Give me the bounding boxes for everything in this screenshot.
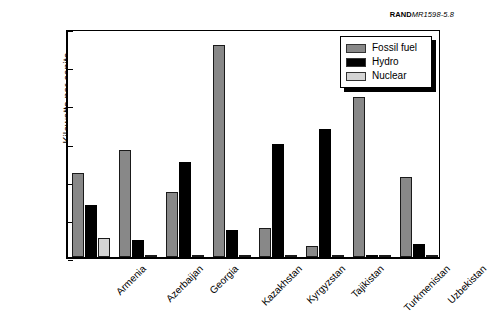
- bar-fossil: [400, 177, 412, 257]
- bar-nuclear: [426, 255, 438, 257]
- bar-fossil: [259, 228, 271, 257]
- bar-hydro: [226, 230, 238, 257]
- legend-swatch: [346, 58, 366, 67]
- x-axis-tick-label: Tajikistan: [349, 263, 386, 300]
- legend-label: Nuclear: [372, 71, 406, 81]
- x-axis-tick-label: Kazakhstan: [259, 263, 304, 308]
- bar-hydro: [366, 255, 378, 257]
- legend-label: Fossil fuel: [372, 43, 417, 53]
- x-axis-tick-label: Armenia: [114, 263, 148, 297]
- bar-group: [213, 31, 251, 257]
- bar-group: [306, 31, 344, 257]
- source-identifier-number: MR1598-5.8: [412, 10, 454, 19]
- legend-swatch: [346, 44, 366, 53]
- legend-swatch: [346, 72, 366, 81]
- bar-group: [119, 31, 157, 257]
- bar-fossil: [353, 97, 365, 257]
- x-axis-tick-label: Turkmenistan: [402, 263, 452, 313]
- y-axis-tick-mark: [68, 260, 73, 261]
- chart-legend: Fossil fuelHydroNuclear: [340, 36, 432, 88]
- x-axis-tick-label: Azerbaijan: [164, 263, 205, 304]
- bar-nuclear: [192, 255, 204, 257]
- bar-fossil: [72, 173, 84, 257]
- bar-fossil: [119, 150, 131, 257]
- x-axis-tick-label: Kyrgyzstan: [305, 263, 348, 306]
- bar-hydro: [132, 240, 144, 257]
- legend-item: Nuclear: [346, 69, 426, 83]
- bar-hydro: [85, 205, 97, 257]
- x-axis-tick-label: Georgia: [207, 263, 240, 296]
- bar-hydro: [413, 244, 425, 257]
- bar-group: [72, 31, 110, 257]
- legend-item: Fossil fuel: [346, 41, 426, 55]
- bar-fossil: [213, 45, 225, 257]
- bar-fossil: [306, 246, 318, 257]
- source-identifier-brand: RAND: [390, 10, 412, 19]
- bar-hydro: [319, 129, 331, 257]
- legend-label: Hydro: [372, 57, 399, 67]
- bar-hydro: [272, 144, 284, 257]
- bar-nuclear: [379, 255, 391, 257]
- bar-group: [259, 31, 297, 257]
- legend-item: Hydro: [346, 55, 426, 69]
- bar-nuclear: [239, 255, 251, 257]
- bar-nuclear: [332, 255, 344, 257]
- bar-group: [166, 31, 204, 257]
- source-identifier: RANDMR1598-5.8: [390, 10, 454, 19]
- bar-nuclear: [285, 255, 297, 257]
- bar-hydro: [179, 162, 191, 257]
- bar-nuclear: [98, 238, 110, 257]
- bar-fossil: [166, 192, 178, 257]
- bar-nuclear: [145, 255, 157, 257]
